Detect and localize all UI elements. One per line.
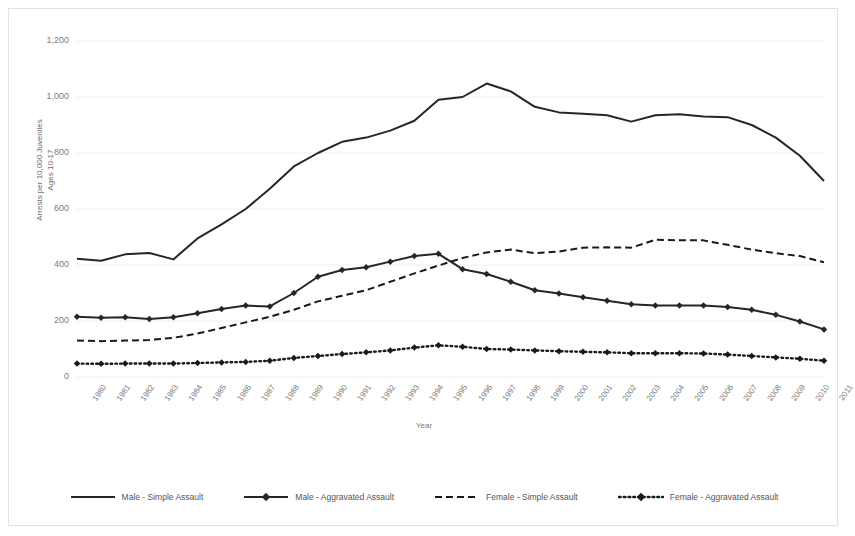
legend-item[interactable]: Male - Aggravated Assault [243, 491, 394, 503]
series-marker [339, 351, 346, 358]
series-marker [74, 360, 81, 367]
series-marker [748, 353, 755, 360]
series-marker [821, 358, 828, 365]
legend-swatch-dotted-line-markers [618, 491, 664, 503]
series-marker [580, 349, 587, 356]
series-marker [700, 302, 707, 309]
series-marker [242, 359, 249, 366]
series-line [77, 240, 824, 341]
series-marker [507, 346, 514, 353]
chart-frame: Arrests per 10,000 Juveniles Ages 10-17 … [8, 8, 838, 526]
x-axis-tick-label: 2011 [837, 383, 854, 402]
legend-item[interactable]: Female - Simple Assault [434, 491, 578, 503]
series-marker [387, 258, 394, 265]
legend-label: Female - Aggravated Assault [670, 492, 779, 502]
series-marker [411, 253, 418, 260]
x-axis-title: Year [9, 421, 839, 430]
series-marker [797, 356, 804, 363]
series-marker [483, 346, 490, 353]
series-marker [556, 348, 563, 355]
series-marker [267, 358, 274, 365]
legend-item[interactable]: Male - Simple Assault [70, 491, 204, 503]
series-line [77, 345, 824, 363]
series-marker [387, 347, 394, 354]
series-marker [748, 307, 755, 314]
series-marker [363, 349, 370, 356]
series-marker [146, 360, 153, 367]
plot-area [9, 9, 839, 527]
series-marker [532, 287, 539, 294]
series-marker [435, 342, 442, 349]
legend-swatch-dashed-line [434, 491, 480, 503]
series-marker [604, 298, 611, 305]
series-marker [339, 267, 346, 274]
series-marker [797, 318, 804, 325]
series-marker [532, 347, 539, 354]
series-marker [315, 353, 322, 360]
series-marker [242, 302, 249, 309]
series-marker [122, 314, 129, 321]
legend-swatch-solid-line [70, 491, 116, 503]
series-marker [507, 279, 514, 286]
legend-label: Female - Simple Assault [486, 492, 578, 502]
series-marker [194, 360, 201, 367]
series-marker [459, 344, 466, 351]
chart-legend: Male - Simple AssaultMale - Aggravated A… [9, 491, 839, 503]
series-marker [291, 355, 298, 362]
series-marker [98, 361, 105, 368]
series-marker [74, 314, 81, 321]
series-marker [194, 310, 201, 317]
series-marker [218, 306, 225, 313]
legend-label: Male - Simple Assault [122, 492, 204, 502]
series-marker [821, 326, 828, 333]
series-marker [652, 350, 659, 357]
series-marker [170, 314, 177, 321]
series-marker [773, 354, 780, 361]
series-marker [483, 271, 490, 278]
series-marker [604, 349, 611, 356]
series-marker [218, 359, 225, 366]
series-marker [676, 350, 683, 357]
series-layer [74, 84, 828, 368]
series-marker [676, 302, 683, 309]
series-marker [580, 294, 587, 301]
series-marker [773, 312, 780, 319]
series-marker [411, 344, 418, 351]
series-marker [628, 301, 635, 308]
series-marker [122, 360, 129, 367]
series-marker [556, 290, 563, 297]
series-line [77, 84, 824, 261]
legend-swatch-solid-line-markers [243, 491, 289, 503]
series-marker [628, 350, 635, 357]
series-marker [170, 360, 177, 367]
legend-label: Male - Aggravated Assault [295, 492, 394, 502]
gridlines [77, 41, 824, 377]
series-marker [724, 351, 731, 358]
series-marker [98, 314, 105, 321]
series-marker [700, 350, 707, 357]
series-marker [724, 304, 731, 311]
legend-item[interactable]: Female - Aggravated Assault [618, 491, 779, 503]
series-marker [652, 302, 659, 309]
